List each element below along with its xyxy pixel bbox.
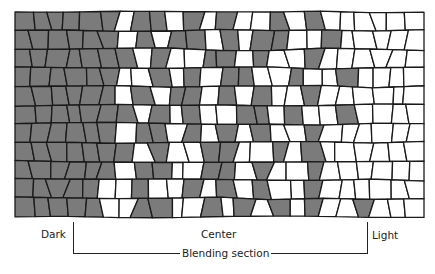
mosaic-tile <box>335 142 357 162</box>
mosaic-tile <box>392 161 410 180</box>
mosaic-tile <box>28 161 51 179</box>
mosaic-tile <box>15 67 31 87</box>
mosaic-tile <box>115 122 137 143</box>
mosaic-tile <box>79 12 103 32</box>
mosaic-tile <box>134 162 153 179</box>
mosaic-tile <box>35 105 52 123</box>
mosaic-tile <box>287 30 307 50</box>
mosaic-tile <box>271 30 289 50</box>
mosaic-tile <box>250 12 270 31</box>
mosaic-tile <box>200 142 220 162</box>
mosaic-tile <box>251 86 272 106</box>
mosaic-tile <box>233 180 254 199</box>
mosaic-tile <box>250 30 275 50</box>
mosaic-tile <box>303 68 322 85</box>
mosaic-tile <box>15 123 32 142</box>
mosaic-tile <box>409 161 424 181</box>
mosaic-tile <box>216 105 237 124</box>
mosaic-tile <box>148 198 173 218</box>
mosaic-tile <box>336 68 359 87</box>
mosaic-tile <box>203 50 217 68</box>
mosaic-tile <box>267 180 292 200</box>
mosaic-tile <box>216 50 236 67</box>
mosaic-tile <box>114 143 135 162</box>
mosaic-tile <box>354 179 370 199</box>
mosaic-tile <box>218 86 237 105</box>
mosaic-tile <box>291 180 305 199</box>
mosaic-tile <box>358 68 373 88</box>
mosaic-tile <box>371 161 392 179</box>
mosaic-tile <box>387 199 405 217</box>
bracket-right-tick <box>367 222 368 253</box>
mosaic-tile <box>97 179 116 198</box>
mosaic-tile <box>99 198 119 217</box>
mosaic-tile <box>321 30 342 49</box>
mosaic-tile <box>404 12 424 30</box>
mosaic-tile <box>66 30 83 49</box>
mosaic-tile <box>370 143 390 162</box>
mosaic-tile <box>172 162 183 179</box>
mosaic-tile <box>48 198 68 217</box>
mosaic-tile <box>117 68 132 86</box>
mosaic-tile <box>15 178 34 197</box>
mosaic-tile <box>250 124 271 142</box>
mosaic-tile <box>234 51 253 68</box>
mosaic-tile <box>15 106 36 124</box>
mosaic-tile <box>62 12 79 30</box>
mosaic-tile <box>221 67 239 86</box>
mosaic-tile <box>373 68 391 88</box>
mosaic-tile <box>267 67 291 86</box>
mosaic-tile <box>372 87 394 104</box>
mosaic-tile <box>64 68 87 86</box>
mosaic-tile <box>200 86 220 105</box>
mosaic-tile <box>181 105 201 124</box>
mosaic-tile <box>403 86 424 105</box>
mosaic-tile <box>166 179 184 198</box>
mosaic-tile <box>369 179 391 199</box>
mosaic-tile <box>220 29 239 50</box>
mosaic-tile <box>130 11 151 31</box>
mosaic-tile <box>169 68 184 87</box>
mosaic-tile <box>165 11 184 31</box>
mosaic-tile <box>117 31 138 48</box>
mosaic-tile <box>83 179 100 198</box>
mosaic-tile <box>339 180 356 200</box>
mosaic-tile <box>405 50 424 67</box>
mosaic-tile <box>403 67 424 86</box>
dark-label: Dark <box>41 228 66 240</box>
mosaic-tile <box>290 199 305 216</box>
mosaic-tile <box>286 162 309 180</box>
mosaic-tile <box>389 67 404 87</box>
mosaic-tile <box>97 143 117 162</box>
mosaic-tile <box>406 124 424 142</box>
mosaic-tile <box>152 162 172 179</box>
mosaic-tile <box>15 12 35 30</box>
mosaic-tile <box>148 179 168 198</box>
mosaic-tile <box>386 12 405 30</box>
center-label: Center <box>201 228 236 240</box>
mosaic-tile <box>182 87 203 106</box>
mosaic-tile <box>15 197 35 217</box>
mosaic-tile <box>221 197 234 216</box>
mosaic-tile <box>184 49 206 68</box>
mosaic-tile <box>97 122 117 143</box>
mosaic-tile <box>319 180 343 199</box>
mosaic-tile <box>318 105 338 125</box>
light-label: Light <box>372 229 398 241</box>
mosaic-tile <box>371 123 393 143</box>
mosaic-tile <box>201 197 223 217</box>
mosaic-tile <box>200 67 224 86</box>
mosaic-tile <box>403 141 424 161</box>
mosaic-tile <box>67 198 87 217</box>
mosaic-tile <box>30 67 51 86</box>
mosaic-tile <box>249 142 273 163</box>
mosaic-tile <box>284 106 303 125</box>
mosaic-tile <box>199 105 217 124</box>
mosaic-tile <box>115 179 132 198</box>
mosaic-tile <box>185 30 206 50</box>
mosaic-tile <box>404 199 424 218</box>
mosaic-tile <box>307 30 322 49</box>
mosaic-tile <box>340 12 355 31</box>
blending-section-label: Blending section <box>180 247 271 259</box>
mosaic-tile <box>267 106 285 125</box>
